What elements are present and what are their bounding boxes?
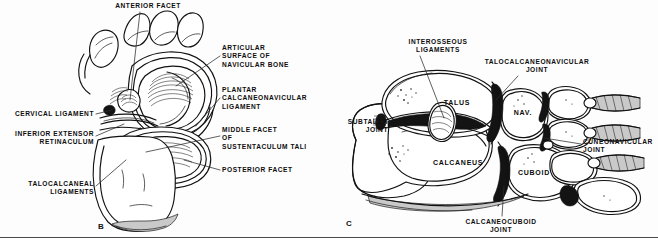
label-talocalcaneonavicular-joint: TALOCALCANEONAVICULAR JOINT [476,58,598,75]
label-cuneonavicular-joint: CUNEONAVICULAR JOINT [583,138,657,155]
figure-bottom-rule [0,237,658,238]
panel-letter-b: B [98,222,104,231]
label-talocalcaneal-ligaments: TALOCALCANEAL LIGAMENTS [2,180,94,197]
label-articular-surface-of-navicular-bone: ARTICULAR SURFACE OF NAVICULAR BONE [222,44,326,69]
panel-c-drawing [353,56,645,216]
label-subtalar-joint: SUBTALAR JOINT [332,118,388,135]
bone-label-calcaneus: CALCANEUS [424,159,492,166]
anatomy-figure: ANTERIOR FACET ARTICULAR SURFACE OF NAVI… [0,0,658,238]
label-middle-facet-of-sustentaculum-tali: MIDDLE FACET OF SUSTENTACULUM TALI [222,126,326,151]
panel-letter-c: C [346,219,352,228]
label-plantar-calcaneonavicular-ligament: PLANTAR CALCANEONAVICULAR LIGAMENT [222,86,326,111]
anatomy-illustration-canvas [0,0,658,238]
label-posterior-facet: POSTERIOR FACET [222,166,326,174]
label-anterior-facet: ANTERIOR FACET [88,2,208,10]
bone-label-navicular: NAV. [508,109,538,116]
label-inferior-extensor-retinaculum: INFERIOR EXTENSOR RETINACULUM [2,130,94,147]
label-calcaneocuboid-joint: CALCANEOCUBOID JOINT [440,218,562,235]
bone-label-cuboid: CUBOID [510,169,558,176]
label-cervical-ligament: CERVICAL LIGAMENT [2,110,94,118]
bone-label-talus: TALUS [434,99,480,106]
panel-b-drawing [79,11,220,231]
label-interosseous-ligaments: INTEROSSEOUS LIGAMENTS [396,38,480,55]
